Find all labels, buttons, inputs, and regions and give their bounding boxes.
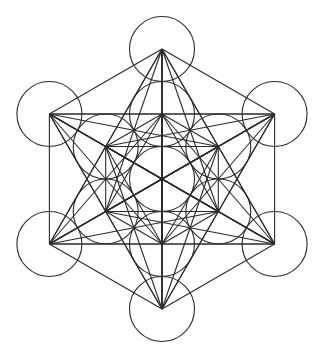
line-outer-top-to-outer-upper-left [49, 49, 162, 114]
line-outer-bottom-to-outer-lower-left [49, 244, 162, 309]
line-outer-lower-right-to-outer-bottom [162, 244, 275, 309]
line-outer-top-to-outer-upper-right [162, 49, 275, 114]
metatrons-cube-diagram [0, 0, 326, 356]
connecting-lines [49, 49, 274, 309]
